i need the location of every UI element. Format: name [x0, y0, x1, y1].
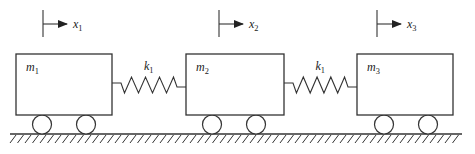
ground-hatch	[258, 135, 264, 143]
ground-hatch	[70, 135, 76, 143]
ground-hatch	[303, 135, 309, 143]
ground-hatch	[108, 135, 114, 143]
ground	[10, 134, 462, 143]
masses: m1m2m3	[16, 54, 453, 115]
ground-hatch	[18, 135, 24, 143]
ground-hatch	[220, 135, 226, 143]
ground-hatch	[10, 135, 16, 143]
ground-hatch	[63, 135, 69, 143]
ground-hatch	[250, 135, 256, 143]
ground-hatch	[130, 135, 136, 143]
spring-mass-diagram: m1m2m3 k1k1 x1x2x3	[0, 0, 475, 154]
wheel	[77, 115, 96, 134]
displacement-label: x3	[406, 17, 417, 33]
spring-label: k1	[316, 59, 326, 75]
ground-hatch	[190, 135, 196, 143]
wheels	[33, 115, 438, 134]
displacement-label: x1	[72, 17, 83, 33]
ground-hatch	[393, 135, 399, 143]
wheel	[375, 115, 394, 134]
ground-hatch	[123, 135, 129, 143]
ground-hatch	[340, 135, 346, 143]
wheel	[203, 115, 222, 134]
ground-hatch	[160, 135, 166, 143]
displacement-3: x3	[377, 10, 417, 37]
ground-hatch	[333, 135, 339, 143]
wheel	[247, 115, 266, 134]
ground-hatch	[355, 135, 361, 143]
ground-hatch	[33, 135, 39, 143]
displacement-label: x2	[248, 17, 259, 33]
ground-hatch	[370, 135, 376, 143]
ground-hatch	[48, 135, 54, 143]
ground-hatch	[318, 135, 324, 143]
ground-hatch	[430, 135, 436, 143]
ground-hatch	[168, 135, 174, 143]
ground-hatch	[175, 135, 181, 143]
ground-hatch	[438, 135, 444, 143]
spring-coil	[112, 77, 186, 93]
ground-hatch	[265, 135, 271, 143]
ground-hatch	[78, 135, 84, 143]
ground-hatch	[273, 135, 279, 143]
ground-hatch	[280, 135, 286, 143]
spring-2: k1	[284, 59, 357, 93]
ground-hatch	[445, 135, 451, 143]
wheel	[419, 115, 438, 134]
ground-hatch	[228, 135, 234, 143]
ground-hatch	[363, 135, 369, 143]
ground-hatch	[205, 135, 211, 143]
ground-hatch	[400, 135, 406, 143]
displacement-1: x1	[43, 10, 83, 37]
ground-hatch	[183, 135, 189, 143]
ground-hatch	[85, 135, 91, 143]
ground-hatch	[198, 135, 204, 143]
mass-3: m3	[357, 54, 453, 115]
ground-hatch	[55, 135, 61, 143]
ground-hatch	[40, 135, 46, 143]
ground-hatch	[115, 135, 121, 143]
mass-2: m2	[186, 54, 284, 115]
ground-hatch	[213, 135, 219, 143]
wheel	[33, 115, 52, 134]
spring-label: k1	[144, 59, 154, 75]
ground-hatch	[325, 135, 331, 143]
displacement-arrows: x1x2x3	[43, 10, 417, 37]
ground-hatch	[235, 135, 241, 143]
ground-hatch	[310, 135, 316, 143]
ground-hatch	[138, 135, 144, 143]
ground-hatch	[93, 135, 99, 143]
ground-hatch	[348, 135, 354, 143]
ground-hatch	[385, 135, 391, 143]
ground-hatch	[25, 135, 31, 143]
spring-coil	[284, 77, 357, 93]
displacement-2: x2	[219, 10, 259, 37]
ground-hatch	[153, 135, 159, 143]
ground-hatch	[378, 135, 384, 143]
ground-hatch	[423, 135, 429, 143]
ground-hatch	[243, 135, 249, 143]
ground-hatch	[100, 135, 106, 143]
ground-hatch	[453, 135, 459, 143]
ground-hatch	[145, 135, 151, 143]
ground-hatch	[288, 135, 294, 143]
ground-hatch	[415, 135, 421, 143]
ground-hatch	[295, 135, 301, 143]
ground-hatch	[408, 135, 414, 143]
mass-1: m1	[16, 54, 112, 115]
spring-1: k1	[112, 59, 186, 93]
